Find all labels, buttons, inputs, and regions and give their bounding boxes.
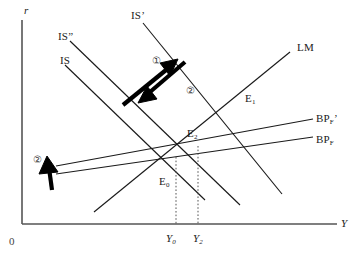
- e1-base: E: [245, 92, 252, 104]
- x-tick-label-Y0: Y0: [166, 233, 176, 244]
- bp-prime-base: BP: [316, 112, 330, 124]
- curve-IS-prime: [143, 23, 282, 194]
- e2-sub: 2: [194, 133, 198, 141]
- axes-group: [22, 20, 337, 224]
- e1-sub: 1: [252, 98, 256, 106]
- x-axis-label: Y: [341, 218, 347, 229]
- annotation-circled-2-left: ②: [33, 155, 42, 165]
- annotation-circled-2-center: ②: [186, 86, 195, 96]
- equilibrium-label-E1: E1: [245, 93, 256, 104]
- curve-label-IS: IS: [60, 55, 70, 66]
- bold-arrows-group: [39, 59, 185, 190]
- annotation-circled-1: ①: [152, 56, 161, 66]
- is-lm-bp-diagram: r Y 0 IS IS” IS’ LM BPF’ BPF E0 E2 E1 Y0…: [0, 0, 361, 263]
- curve-IS: [65, 65, 205, 200]
- curve-label-LM: LM: [297, 42, 314, 53]
- origin-label: 0: [9, 236, 15, 247]
- bold-arrow-down-left-icon: [138, 62, 185, 103]
- e0-sub: 0: [166, 181, 170, 189]
- curve-label-IS-prime: IS’: [131, 10, 145, 21]
- projection-lines-group: [176, 146, 198, 224]
- y-axis-label: r: [24, 5, 28, 16]
- curve-label-BP-F: BPF: [316, 134, 334, 145]
- curve-label-BP-F-prime: BPF’: [316, 113, 338, 124]
- bp-sub: F: [330, 139, 334, 147]
- bp-base: BP: [316, 133, 330, 145]
- diagram-canvas: [0, 0, 361, 263]
- curves-group: [56, 23, 313, 212]
- curve-label-IS-double-prime: IS”: [58, 31, 73, 42]
- equilibrium-label-E2: E2: [187, 128, 198, 139]
- y2-sub: 2: [199, 238, 203, 246]
- bp-prime-mark: ’: [334, 112, 338, 124]
- e0-base: E: [159, 175, 166, 187]
- bp-prime-sub: F: [330, 118, 334, 126]
- y0-sub: 0: [172, 238, 176, 246]
- x-tick-label-Y2: Y2: [193, 233, 203, 244]
- equilibrium-label-E0: E0: [159, 176, 170, 187]
- e2-base: E: [187, 127, 194, 139]
